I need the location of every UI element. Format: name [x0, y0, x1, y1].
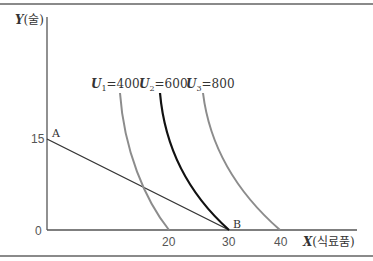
curve-u1-label: U1=400 — [91, 78, 140, 93]
curve-u3-label: U3=800 — [186, 78, 235, 93]
x-tick-30: 30 — [222, 236, 235, 248]
x-tick-40: 40 — [274, 236, 287, 248]
curve-u2-label: U2=600 — [139, 78, 188, 93]
indifference-curve-u3 — [203, 93, 280, 230]
y-axis-label: Y(술) — [15, 14, 44, 26]
origin-tick: 0 — [35, 225, 42, 237]
point-a-label: A — [52, 128, 60, 139]
budget-line — [47, 139, 229, 230]
point-b-label: B — [233, 219, 241, 230]
y-tick-15: 15 — [31, 133, 44, 145]
indifference-curve-u2 — [160, 93, 229, 230]
x-tick-20: 20 — [162, 236, 175, 248]
x-axis-label: X(식료품) — [303, 236, 355, 248]
